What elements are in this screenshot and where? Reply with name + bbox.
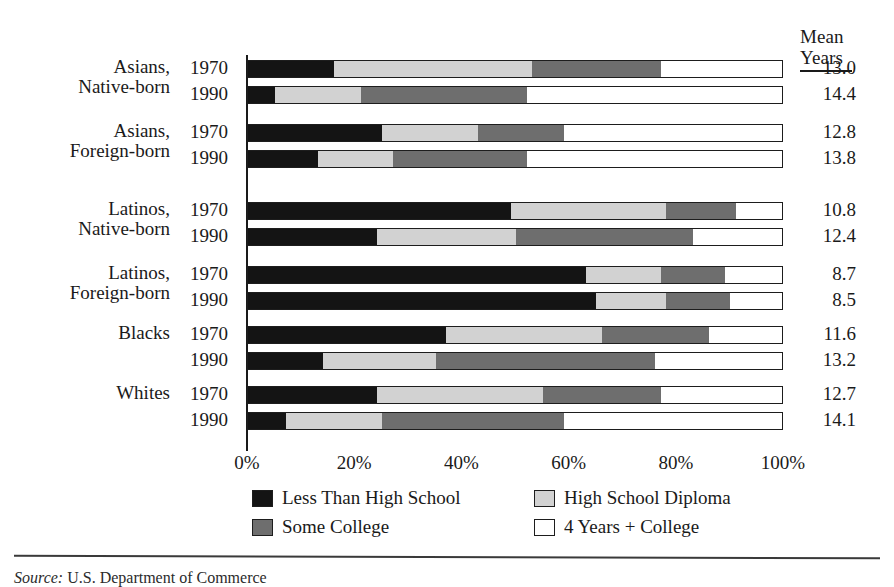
mean-years-value: 12.7 xyxy=(800,385,856,403)
legend-item: 4 Years + College xyxy=(534,516,699,538)
x-tick-label: 60% xyxy=(534,452,604,474)
stacked-bar xyxy=(247,292,783,310)
category-label-line1: Asians, xyxy=(114,120,170,141)
legend-item: High School Diploma xyxy=(534,487,731,509)
bar-segment xyxy=(248,229,377,245)
bar-segment xyxy=(248,353,323,369)
bar-segment xyxy=(666,293,730,309)
year-label: 1990 xyxy=(190,351,238,369)
bar-segment xyxy=(248,327,446,343)
stacked-bar xyxy=(247,266,783,284)
stacked-bar xyxy=(247,228,783,246)
x-tick-label: 40% xyxy=(426,452,496,474)
bar-segment xyxy=(709,327,783,343)
bar-segment xyxy=(377,229,516,245)
dark-gray-swatch xyxy=(252,519,273,536)
category-label-line1: Latinos, xyxy=(108,262,170,283)
stacked-bar xyxy=(247,86,783,104)
footer-divider xyxy=(14,555,880,560)
mean-years-value: 14.4 xyxy=(800,85,856,103)
legend-label: Less Than High School xyxy=(282,487,461,509)
category-label: Latinos,Native-born xyxy=(0,199,170,239)
stacked-bar xyxy=(247,326,783,344)
mean-years-value: 8.5 xyxy=(800,291,856,309)
year-label: 1970 xyxy=(190,265,238,283)
legend-label: Some College xyxy=(282,516,389,538)
mean-years-value: 13.0 xyxy=(800,59,856,77)
bar-segment xyxy=(248,125,382,141)
year-label: 1970 xyxy=(190,385,238,403)
bar-segment xyxy=(318,151,393,167)
source-text: U.S. Department of Commerce xyxy=(67,569,267,586)
year-label: 1990 xyxy=(190,149,238,167)
bar-segment xyxy=(666,203,736,219)
bar-segment xyxy=(736,203,783,219)
mean-years-value: 13.8 xyxy=(800,149,856,167)
bar-segment xyxy=(478,125,564,141)
bar-segment xyxy=(248,267,586,283)
bar-segment xyxy=(602,327,709,343)
bar-segment xyxy=(377,387,543,403)
category-label-line1: Asians, xyxy=(114,56,170,77)
bar-segment xyxy=(516,229,693,245)
stacked-bar xyxy=(247,150,783,168)
light-gray-swatch xyxy=(534,490,555,507)
category-label: Blacks xyxy=(0,323,170,343)
mean-years-value: 13.2 xyxy=(800,351,856,369)
stacked-bar xyxy=(247,60,783,78)
stacked-bar xyxy=(247,386,783,404)
category-label-line1: Blacks xyxy=(118,322,170,343)
mean-years-value: 14.1 xyxy=(800,411,856,429)
category-label-line2: Foreign-born xyxy=(0,141,170,161)
source-prefix: Source: xyxy=(14,569,63,586)
legend-label: High School Diploma xyxy=(564,487,731,509)
bar-segment xyxy=(323,353,436,369)
bar-segment xyxy=(275,87,361,103)
bar-segment xyxy=(655,353,783,369)
stacked-bar xyxy=(247,352,783,370)
category-label-line2: Native-born xyxy=(0,77,170,97)
bar-segment xyxy=(248,87,275,103)
bar-segment xyxy=(586,267,661,283)
mean-years-value: 12.4 xyxy=(800,227,856,245)
bar-segment xyxy=(511,203,666,219)
bar-segment xyxy=(725,267,783,283)
mean-years-value: 8.7 xyxy=(800,265,856,283)
year-label: 1970 xyxy=(190,59,238,77)
source-note: Source: U.S. Department of Commerce xyxy=(14,569,267,587)
mean-years-line1: Mean xyxy=(800,26,890,47)
year-label: 1970 xyxy=(190,201,238,219)
category-label: Asians,Native-born xyxy=(0,57,170,97)
bar-segment xyxy=(661,61,783,77)
black-swatch xyxy=(252,490,273,507)
bar-segment xyxy=(730,293,783,309)
legend-label: 4 Years + College xyxy=(564,516,699,538)
year-label: 1990 xyxy=(190,291,238,309)
bar-segment xyxy=(446,327,601,343)
bar-segment xyxy=(436,353,656,369)
bar-segment xyxy=(248,387,377,403)
bar-segment xyxy=(382,125,478,141)
bar-segment xyxy=(361,87,527,103)
bar-segment xyxy=(393,151,527,167)
category-label-line1: Whites xyxy=(116,382,170,403)
chart-legend: Less Than High SchoolHigh School Diploma… xyxy=(252,487,792,543)
mean-years-value: 11.6 xyxy=(800,325,856,343)
year-label: 1970 xyxy=(190,123,238,141)
bar-segment xyxy=(661,387,783,403)
bar-segment xyxy=(693,229,783,245)
bar-segment xyxy=(596,293,666,309)
bar-segment xyxy=(564,125,783,141)
stacked-bar xyxy=(247,412,783,430)
bar-segment xyxy=(248,413,286,429)
year-label: 1990 xyxy=(190,85,238,103)
bar-segment xyxy=(248,203,511,219)
bar-segment xyxy=(527,87,783,103)
bar-segment xyxy=(248,61,334,77)
mean-years-value: 10.8 xyxy=(800,201,856,219)
year-label: 1990 xyxy=(190,227,238,245)
stacked-bar xyxy=(247,202,783,220)
bar-segment xyxy=(532,61,661,77)
x-tick-label: 80% xyxy=(641,452,711,474)
